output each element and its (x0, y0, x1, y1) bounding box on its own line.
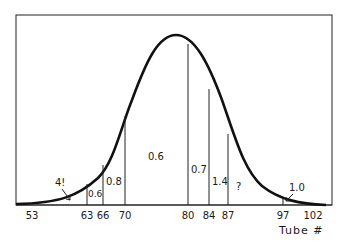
x-tick-102: 102 (303, 210, 322, 221)
segment-label-63-66: 0.6 (88, 189, 102, 199)
segment-label-87-97: ? (236, 181, 241, 192)
x-tick-80: 80 (182, 210, 195, 221)
x-tick-84: 84 (203, 210, 216, 221)
x-tick-70: 70 (119, 210, 132, 221)
segment-label-66-70: 0.8 (106, 176, 122, 187)
x-tick-87: 87 (222, 210, 235, 221)
segment-label-80-84: 0.7 (191, 164, 207, 175)
segment-label-53-63: 4! (55, 177, 65, 188)
x-tick-63: 63 (81, 210, 94, 221)
x-axis-label: Tube # (279, 224, 323, 237)
x-tick-66: 66 (97, 210, 110, 221)
x-tick-97: 97 (277, 210, 290, 221)
distribution-chart (0, 0, 346, 248)
segment-label-84-87: 1.4 (212, 176, 228, 187)
segment-label-97-102: 1.0 (289, 182, 305, 193)
x-tick-53: 53 (26, 210, 39, 221)
segment-label-70-80: 0.6 (148, 151, 164, 162)
